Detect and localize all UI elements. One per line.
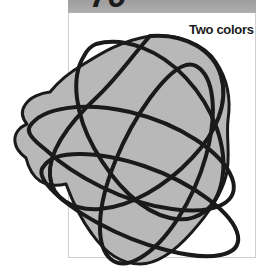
scanned-page-figure: 76 Two colors: [0, 0, 267, 269]
page-header-banner: 76: [68, 0, 256, 13]
figure-caption: Two colors: [189, 23, 254, 37]
page-panel: [68, 0, 256, 258]
page-number-label: 76: [90, 0, 125, 12]
